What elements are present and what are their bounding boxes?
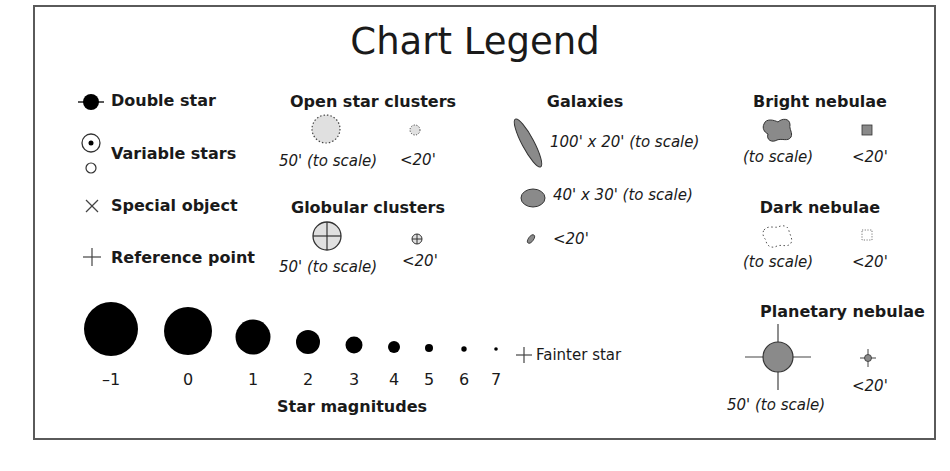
magnitude-0-icon: [164, 307, 212, 355]
globular-cluster-small-icon: [410, 232, 424, 246]
magnitude-label: 6: [449, 370, 479, 389]
bright-nebulae-heading: Bright nebulae: [750, 92, 890, 111]
variable-stars-label: Variable stars: [111, 144, 236, 163]
legend-title: Chart Legend: [0, 20, 950, 63]
magnitude-label: 7: [481, 370, 511, 389]
globular-cluster-large-caption: 50' (to scale): [279, 258, 377, 276]
planetary-nebula-small-caption: <20': [852, 377, 888, 395]
variable-star-icon: [80, 132, 104, 178]
magnitude-label: 3: [339, 370, 369, 389]
magnitude-6-icon: [461, 346, 466, 351]
magnitude-label: 0: [173, 370, 203, 389]
magnitude-3-icon: [346, 337, 363, 354]
fainter-star-icon: [516, 347, 532, 363]
galaxy-medium-icon: [519, 187, 547, 209]
galaxy-large-caption: 100' x 20' (to scale): [550, 133, 699, 151]
double-star-icon: [78, 92, 104, 112]
planetary-nebulae-heading: Planetary nebulae: [760, 302, 920, 321]
galaxy-medium-caption: 40' x 30' (to scale): [553, 186, 693, 204]
magnitude-label: 4: [379, 370, 409, 389]
magnitude-1-icon: [236, 320, 271, 355]
galaxy-small-caption: <20': [553, 230, 589, 248]
globular-clusters-heading: Globular clusters: [290, 198, 446, 217]
open-cluster-small-icon: [408, 123, 422, 137]
dark-nebula-small-icon: [861, 229, 873, 241]
planetary-nebula-large-icon: [745, 324, 811, 390]
magnitude-4-icon: [388, 341, 400, 353]
special-object-label: Special object: [111, 196, 238, 215]
magnitude-label: –1: [96, 370, 126, 389]
planetary-nebula-small-icon: [860, 349, 876, 367]
open-clusters-heading: Open star clusters: [290, 92, 446, 111]
star-magnitudes-heading: Star magnitudes: [262, 397, 442, 416]
globular-cluster-small-caption: <20': [402, 252, 438, 270]
dark-nebulae-heading: Dark nebulae: [750, 198, 890, 217]
reference-point-label: Reference point: [111, 248, 255, 267]
galaxies-heading: Galaxies: [530, 92, 640, 111]
open-cluster-small-caption: <20': [400, 151, 436, 169]
dark-nebula-small-caption: <20': [852, 253, 888, 271]
globular-cluster-large-icon: [311, 220, 343, 252]
magnitude-5-icon: [425, 344, 433, 352]
planetary-nebula-large-caption: 50' (to scale): [727, 396, 825, 414]
bright-nebula-small-icon: [861, 124, 873, 136]
magnitude-label: 1: [238, 370, 268, 389]
double-star-label: Double star: [111, 91, 216, 110]
fainter-star-label: Fainter star: [536, 346, 621, 364]
bright-nebula-large-caption: (to scale): [743, 148, 813, 166]
special-object-icon: [85, 199, 99, 213]
dark-nebula-large-caption: (to scale): [743, 253, 813, 271]
bright-nebula-small-caption: <20': [852, 148, 888, 166]
magnitude-label: 5: [414, 370, 444, 389]
reference-point-icon: [83, 248, 101, 266]
magnitude-label: 2: [293, 370, 323, 389]
dark-nebula-large-icon: [760, 222, 794, 250]
open-cluster-large-caption: 50' (to scale): [279, 152, 377, 170]
bright-nebula-large-icon: [760, 116, 794, 144]
star-magnitude-dots: [0, 290, 520, 370]
magnitude-2-icon: [296, 330, 320, 354]
galaxy-small-icon: [525, 233, 537, 245]
magnitude-minus1-icon: [84, 302, 138, 356]
open-cluster-large-icon: [310, 113, 342, 145]
magnitude-7-icon: [494, 347, 498, 351]
galaxy-large-icon: [508, 115, 548, 171]
